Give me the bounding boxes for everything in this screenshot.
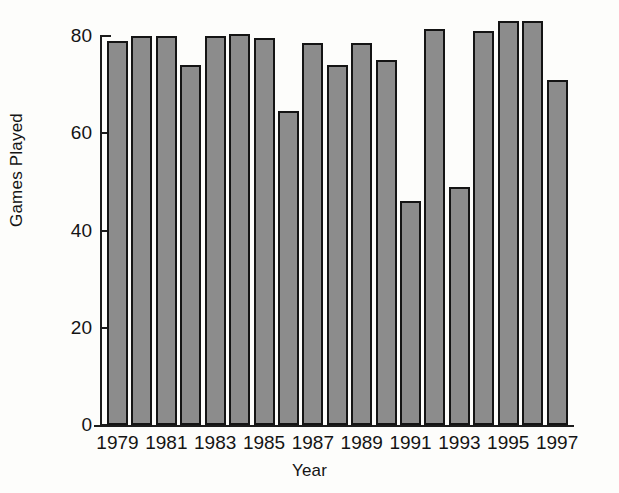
x-axis-line: [94, 425, 574, 427]
bar: [254, 38, 275, 425]
x-axis-tick-label: 1997: [532, 432, 582, 454]
x-axis-tick-label: 1987: [288, 432, 338, 454]
bar: [278, 111, 299, 425]
bar: [156, 36, 177, 425]
bar: [547, 80, 568, 425]
x-axis-tick-label: 1985: [239, 432, 289, 454]
bar: [522, 21, 543, 425]
x-axis-tick-label: 1983: [190, 432, 240, 454]
bar-chart: 020406080 Games Played 19791981198319851…: [0, 0, 619, 493]
bar: [400, 201, 421, 425]
x-axis-tick-label: 1993: [434, 432, 484, 454]
x-axis-title: Year: [0, 461, 619, 481]
bar: [376, 60, 397, 425]
x-axis-tick-label: 1989: [337, 432, 387, 454]
bar: [107, 41, 128, 425]
bar: [180, 65, 201, 425]
bar: [131, 36, 152, 425]
x-axis-tick-label: 1995: [483, 432, 533, 454]
bar: [424, 29, 445, 425]
bar: [205, 36, 226, 425]
x-axis-tick-label: 1991: [386, 432, 436, 454]
x-axis-tick-label: 1979: [93, 432, 143, 454]
bars-container: [0, 0, 619, 493]
x-axis-tick-label: 1981: [141, 432, 191, 454]
bar: [449, 187, 470, 425]
bar: [498, 21, 519, 425]
bar: [302, 43, 323, 425]
bar: [327, 65, 348, 425]
bar: [229, 34, 250, 425]
bar: [351, 43, 372, 425]
bar: [473, 31, 494, 425]
